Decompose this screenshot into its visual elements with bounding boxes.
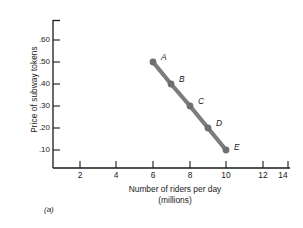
data-point-a (150, 59, 157, 66)
data-point-e (223, 147, 230, 154)
point-label-b: B (179, 75, 185, 84)
data-point-b (168, 81, 175, 88)
point-label-d: D (216, 119, 222, 128)
data-point-d (205, 125, 212, 132)
panel-caption: (a) (44, 205, 54, 214)
x-axis-label: Number of riders per day (129, 184, 222, 194)
x-tick-marks (80, 161, 288, 168)
point-label-c: C (198, 97, 204, 106)
point-label-a: A (161, 53, 167, 62)
y-tick-marks (53, 40, 60, 150)
figure-panel: Price of subway tokens .60 .50 .40 .30 .… (0, 0, 303, 228)
data-point-c (187, 103, 194, 110)
x-axis-label-units: (millions) (60, 195, 290, 206)
point-label-e: E (234, 143, 240, 152)
x-axis-label-group: Number of riders per day (millions) (60, 184, 290, 205)
